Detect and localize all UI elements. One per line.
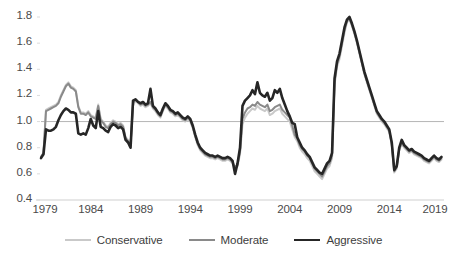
y-tick-label: 1.4 [0, 61, 32, 73]
x-tick-label: 1979 [22, 203, 68, 215]
legend-item-moderate[interactable]: Moderate [189, 234, 269, 246]
data-series-group [41, 17, 442, 179]
y-tick-label: 1.6 [0, 35, 32, 47]
x-tick-label: 2014 [366, 203, 412, 215]
x-tick-label: 2004 [267, 203, 313, 215]
legend-item-conservative[interactable]: Conservative [65, 234, 163, 246]
x-tick-label: 2019 [412, 203, 452, 215]
series-line-moderate [41, 18, 442, 176]
x-tick-label: 1994 [167, 203, 213, 215]
legend-line-swatch-icon [189, 239, 215, 241]
legend-label: Aggressive [326, 234, 382, 246]
chart-legend: ConservativeModerateAggressive [0, 234, 447, 246]
y-tick-label: 1.2 [0, 87, 32, 99]
x-tick-label: 1999 [217, 203, 263, 215]
legend-label: Moderate [221, 234, 269, 246]
series-line-conservative [41, 20, 442, 179]
legend-line-swatch-icon [294, 239, 320, 241]
x-tick-label: 1984 [68, 203, 114, 215]
x-tick-label: 2009 [317, 203, 363, 215]
legend-line-swatch-icon [65, 239, 91, 241]
y-tick-label: 0.6 [0, 166, 32, 178]
legend-label: Conservative [97, 234, 163, 246]
y-tick-label: 0.8 [0, 140, 32, 152]
legend-item-aggressive[interactable]: Aggressive [294, 234, 382, 246]
y-tick-label: 1.0 [0, 114, 32, 126]
y-tick-label: 1.8 [0, 9, 32, 21]
x-tick-label: 1989 [118, 203, 164, 215]
